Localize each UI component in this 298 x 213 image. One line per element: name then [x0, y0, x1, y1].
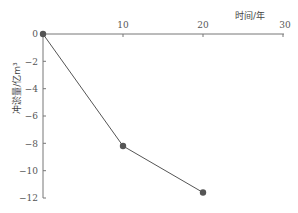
y-tick-label: −12	[19, 193, 38, 203]
data-point	[200, 189, 206, 195]
y-tick-label: −2	[25, 57, 38, 67]
data-point	[120, 143, 126, 149]
y-tick-label: −6	[25, 111, 39, 121]
x-axis-title: 时间/年	[235, 10, 265, 21]
data-line	[43, 34, 203, 193]
y-tick-label: −8	[25, 139, 39, 149]
y-tick-label: −4	[25, 84, 39, 94]
y-tick-label: 0	[32, 29, 38, 39]
data-point	[40, 31, 46, 37]
x-tick-label: 10	[117, 20, 129, 30]
y-axis-title: 冲淤量/亿m³	[11, 62, 22, 114]
y-tick-label: −10	[19, 166, 38, 176]
chart: 10 20 30 0 −2 −4 −6 −8 −10 −12 时间/年 冲淤量/…	[0, 0, 298, 213]
x-tick-label: 30	[279, 20, 291, 30]
x-tick-label: 20	[197, 20, 209, 30]
